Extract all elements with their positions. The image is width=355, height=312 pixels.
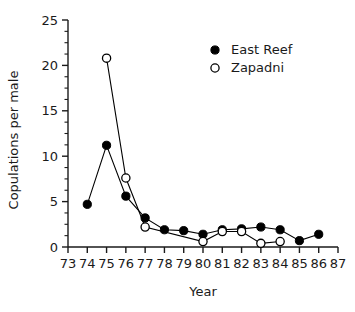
legend-marker-open-circle-icon <box>211 64 219 72</box>
data-point <box>141 223 149 231</box>
data-point <box>102 54 110 62</box>
x-tick-label: 73 <box>60 256 77 271</box>
data-point <box>218 227 226 235</box>
x-tick-label: 79 <box>175 256 192 271</box>
data-point <box>83 200 91 208</box>
x-axis-tick-labels: 737475767778798081828384858687 <box>60 256 347 271</box>
y-tick-label: 10 <box>41 149 58 164</box>
data-point <box>315 230 323 238</box>
x-tick-label: 85 <box>291 256 308 271</box>
x-tick-label: 81 <box>214 256 231 271</box>
y-tick-label: 0 <box>50 240 58 255</box>
y-tick-label: 5 <box>50 194 58 209</box>
x-tick-label: 83 <box>253 256 270 271</box>
data-point <box>276 237 284 245</box>
data-point <box>122 174 130 182</box>
legend-label: East Reef <box>231 42 293 57</box>
y-axis-tick-labels: 0510152025 <box>41 13 58 255</box>
x-tick-label: 77 <box>137 256 154 271</box>
data-point <box>237 227 245 235</box>
y-tick-label: 20 <box>41 58 58 73</box>
x-tick-label: 80 <box>195 256 212 271</box>
chart-legend: East ReefZapadni <box>211 42 293 75</box>
data-point <box>276 226 284 234</box>
x-tick-label: 84 <box>272 256 289 271</box>
x-tick-label: 74 <box>79 256 96 271</box>
x-tick-label: 76 <box>118 256 135 271</box>
x-tick-label: 78 <box>156 256 173 271</box>
series-1 <box>83 141 323 245</box>
data-point <box>295 237 303 245</box>
legend-label: Zapadni <box>231 60 284 75</box>
x-axis-title: Year <box>188 284 217 299</box>
series-2 <box>102 54 284 247</box>
data-point <box>102 141 110 149</box>
y-axis-ticks <box>62 20 68 247</box>
x-tick-label: 87 <box>330 256 347 271</box>
y-tick-label: 25 <box>41 13 58 28</box>
y-axis-title: Copulations per male <box>6 71 21 210</box>
y-tick-label: 15 <box>41 103 58 118</box>
x-tick-label: 75 <box>98 256 115 271</box>
series-line <box>107 58 281 243</box>
data-point <box>257 239 265 247</box>
x-tick-label: 82 <box>233 256 250 271</box>
data-point <box>180 227 188 235</box>
data-series-layer <box>83 54 323 247</box>
chart-container: 0510152025 73747576777879808182838485868… <box>0 0 355 312</box>
series-line <box>87 145 318 240</box>
x-axis-ticks <box>68 247 338 253</box>
chart-svg: 0510152025 73747576777879808182838485868… <box>0 0 355 312</box>
data-point <box>257 223 265 231</box>
legend-marker-filled-circle-icon <box>211 46 219 54</box>
data-point <box>122 192 130 200</box>
x-tick-label: 86 <box>310 256 327 271</box>
data-point <box>199 237 207 245</box>
